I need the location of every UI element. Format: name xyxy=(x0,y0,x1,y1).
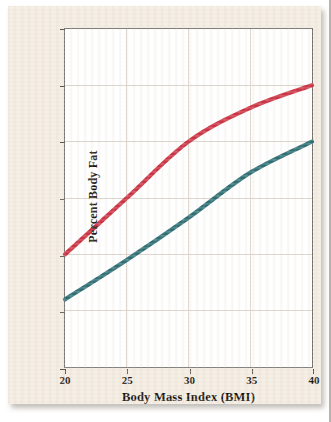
y-axis-label: Percent Body Fat xyxy=(86,107,101,287)
xtick-label-40: 40 xyxy=(297,374,331,386)
x-axis-label: Body Mass Index (BMI) xyxy=(64,390,313,405)
ytick-mark-40 xyxy=(60,142,65,143)
xtick-label-25: 25 xyxy=(110,374,144,386)
xtick-label-35: 35 xyxy=(235,374,269,386)
ytick-mark-10 xyxy=(60,312,65,313)
xtick-label-20: 20 xyxy=(48,374,82,386)
ytick-mark-20 xyxy=(60,256,65,257)
ytick-mark-30 xyxy=(60,199,65,200)
chart-paper-card: 60 50 40 30 20 10 0 20 25 30 35 40 Perce… xyxy=(8,6,321,404)
xtick-label-30: 30 xyxy=(173,374,207,386)
series-line-upper xyxy=(65,85,312,254)
plot-area: 60 50 40 30 20 10 0 20 25 30 35 40 Perce… xyxy=(64,28,313,368)
series-layer xyxy=(65,29,312,367)
ytick-mark-50 xyxy=(60,86,65,87)
ytick-mark-60 xyxy=(60,29,65,30)
